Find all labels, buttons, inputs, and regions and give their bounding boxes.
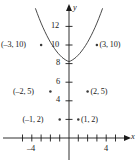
y-axis-label: y [73,4,77,12]
point-label-3-10: (3, 10) [100,41,121,49]
point-label-neg2-5: (–2, 5) [13,88,34,96]
point-label-neg3-10: (–3, 10) [1,41,26,49]
point-label-2-5: (2, 5) [91,88,108,96]
graph-figure: 12 10 8 6 4 –4 4 y x (–3, 10) (3, 10) (–… [0,0,138,168]
point-label-1-2: (1, 2) [81,116,98,124]
y-tick-label-10: 10 [51,41,59,49]
coordinate-plane-svg [0,0,138,168]
x-tick-label-4: 4 [104,145,108,153]
point-dot-neg2-5 [49,90,52,93]
point-dot-2-5 [86,90,89,93]
y-tick-label-6: 6 [56,78,60,86]
x-axis-label: x [131,133,135,141]
point-label-neg1-2: (–1, 2) [23,116,44,124]
point-dot-neg1-2 [58,118,61,121]
y-tick-label-8: 8 [56,59,60,67]
x-tick-label-neg4: –4 [27,145,35,153]
point-dot-1-2 [77,118,80,121]
point-dot-3-10 [96,44,99,47]
y-tick-label-4: 4 [56,96,60,104]
x-axis-arrow-icon [124,135,131,141]
y-tick-label-12: 12 [51,22,59,30]
y-axis-arrow-icon [66,4,72,11]
point-dot-neg3-10 [40,44,43,47]
